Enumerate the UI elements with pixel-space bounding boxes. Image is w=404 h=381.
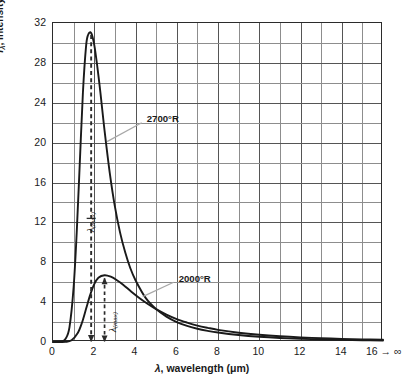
- series-label-2700R: 2700°R: [147, 113, 179, 124]
- x-tick-label: 0: [32, 346, 72, 357]
- x-tick-label: 14: [321, 346, 361, 357]
- x-axis-title: λ, wavelength (μm): [0, 362, 404, 374]
- lambda-max-label-2700: λ(max): [86, 212, 96, 232]
- x-tick-label: 2: [73, 346, 113, 357]
- curve-2700R: [53, 32, 383, 342]
- x-tick-label: 6: [156, 346, 196, 357]
- leader-line-2700: [107, 123, 142, 142]
- y-tick-label: 20: [8, 137, 46, 147]
- y-tick-label: 0: [8, 336, 46, 346]
- series-label-2000R: 2000°R: [179, 273, 211, 284]
- curve-layer: [53, 23, 383, 342]
- chart-figure: λ(max) λ(max) 2700°R 2000°R 048121620242…: [0, 0, 404, 381]
- x-tick-label: 4: [115, 346, 155, 357]
- y-tick-label: 8: [8, 256, 46, 266]
- arrow-down-2700: [88, 335, 94, 342]
- y-axis-title: Iλ, Intensity of monochromatic emission …: [0, 0, 22, 72]
- x-tick-label: 16 → ∞: [366, 346, 404, 357]
- y-tick-label: 16: [8, 177, 46, 187]
- leader-line-2000: [143, 282, 174, 296]
- lambda-max-label-2000: λ(max): [108, 312, 118, 332]
- arrow-up-2000: [102, 278, 108, 285]
- x-tick-label: 8: [197, 346, 237, 357]
- y-tick-label: 24: [8, 97, 46, 107]
- x-tick-label: 12: [280, 346, 320, 357]
- y-tick-label: 4: [8, 296, 46, 306]
- plot-area: λ(max) λ(max) 2700°R 2000°R: [52, 22, 382, 341]
- y-tick-label: 12: [8, 216, 46, 226]
- series-curves: [53, 32, 383, 342]
- x-tick-label: 10: [238, 346, 278, 357]
- arrow-down-2000: [102, 336, 108, 343]
